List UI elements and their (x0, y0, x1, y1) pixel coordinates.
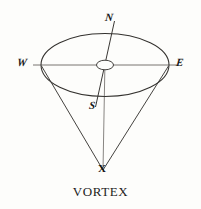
apex-marker-label: X (98, 163, 106, 174)
compass-label-north: N (104, 12, 113, 23)
cone-side-left-line (42, 66, 104, 170)
compass-label-east: E (175, 57, 183, 68)
cone-side-right-line (103, 66, 169, 170)
axis-vertical-line (103, 60, 105, 170)
compass-label-west: W (16, 57, 27, 68)
hub-ellipse (97, 60, 114, 70)
vortex-diagram (0, 0, 201, 209)
vortex-figure: N W E S X VORTEX (0, 0, 201, 209)
compass-label-south: S (88, 100, 95, 111)
figure-caption: VORTEX (0, 184, 201, 200)
